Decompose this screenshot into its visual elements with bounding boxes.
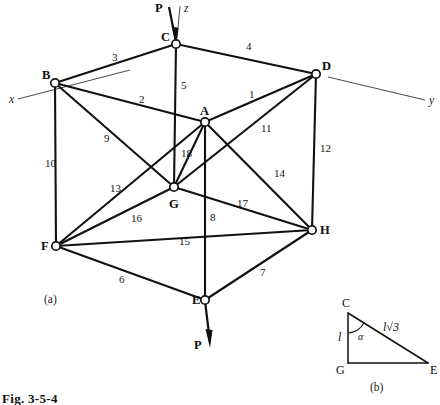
member-label-5: 5 — [181, 80, 187, 91]
member-label-11: 11 — [261, 123, 272, 134]
member-label-6: 6 — [119, 274, 125, 285]
joint-label-F: F — [41, 240, 49, 253]
member-label-3: 3 — [112, 52, 118, 63]
member-label-18: 18 — [181, 148, 192, 159]
member-1 — [205, 74, 316, 122]
inset-side-label-hypotenuse: l√3 — [383, 321, 399, 333]
member-label-14: 14 — [274, 168, 285, 179]
joint-label-B: B — [42, 69, 50, 82]
member-3 — [55, 44, 176, 83]
member-label-2: 2 — [139, 94, 145, 105]
joint-A — [201, 118, 209, 126]
x-axis-line — [18, 70, 130, 99]
joint-label-D: D — [322, 60, 331, 73]
member-label-4: 4 — [246, 41, 252, 52]
joint-label-A: A — [200, 105, 209, 118]
load-label-top: P — [155, 2, 163, 15]
x-axis-label: x — [9, 94, 14, 106]
member-label-17: 17 — [237, 198, 248, 209]
joint-C — [172, 40, 180, 48]
y-axis-line — [328, 77, 425, 100]
member-16 — [56, 122, 205, 246]
joint-label-H: H — [320, 224, 330, 237]
joint-B — [51, 79, 59, 87]
y-axis-label: y — [429, 95, 434, 107]
part-b-label: (b) — [370, 382, 383, 394]
member-12 — [312, 74, 316, 230]
inset-vertex-label-C: C — [342, 297, 350, 309]
load-arrow-bottom — [205, 301, 213, 348]
inset-side-label-l: l — [338, 331, 341, 343]
inset-vertex-label-G: G — [336, 364, 345, 376]
joint-G — [170, 183, 178, 191]
joint-label-G: G — [169, 198, 179, 211]
joint-label-E: E — [192, 294, 200, 307]
member-5 — [174, 44, 176, 187]
member-6 — [56, 246, 205, 300]
truss-diagram-canvas — [0, 0, 440, 405]
figure-3-5-4: A B C D E F G H 1 2 3 4 5 6 7 8 9 10 11 … — [0, 0, 440, 405]
joint-D — [312, 70, 320, 78]
load-label-bottom: P — [194, 339, 202, 352]
member-label-9: 9 — [104, 133, 110, 144]
inset-vertex-label-E: E — [430, 364, 437, 376]
inset-angle-label-alpha: α — [358, 332, 363, 342]
member-label-12: 12 — [320, 143, 331, 154]
member-label-1: 1 — [249, 89, 255, 100]
member-label-8: 8 — [210, 212, 216, 223]
member-label-15: 15 — [179, 236, 190, 247]
member-label-13: 13 — [110, 183, 121, 194]
joint-E — [201, 296, 209, 304]
member-label-16: 16 — [131, 213, 142, 224]
joint-label-C: C — [161, 31, 170, 44]
member-label-7: 7 — [260, 267, 266, 278]
z-axis-label: z — [184, 3, 188, 15]
part-a-label: (a) — [44, 294, 57, 306]
member-label-10: 10 — [45, 158, 56, 169]
figure-caption: Fig. 3-5-4 — [2, 392, 58, 405]
joint-F — [52, 242, 60, 250]
load-arrow-top — [169, 7, 179, 44]
member-7 — [205, 230, 312, 300]
joint-H — [308, 226, 316, 234]
